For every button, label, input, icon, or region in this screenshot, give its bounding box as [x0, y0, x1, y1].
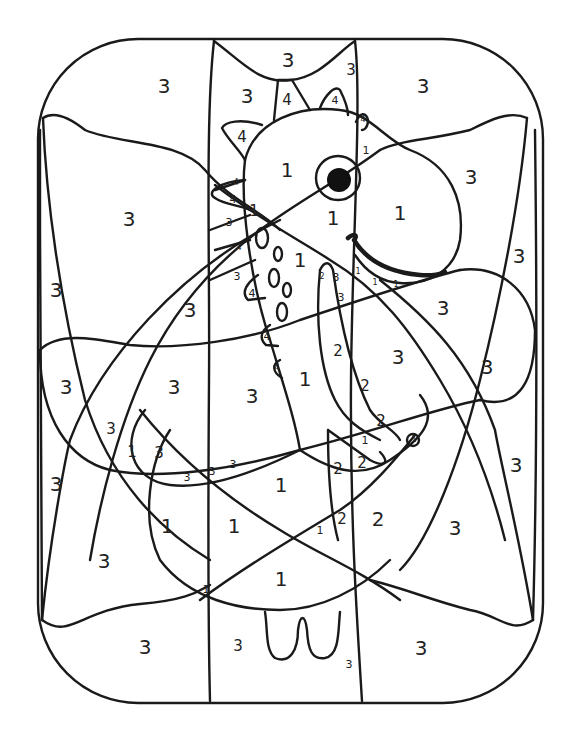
region-number-label: 1 [299, 369, 312, 389]
spot-2 [274, 247, 282, 261]
region-number-label: 1 [372, 279, 377, 287]
right-wing-lower [400, 118, 527, 570]
region-number-label: 3 [233, 639, 243, 654]
spot-1 [256, 228, 268, 248]
region-number-label: 3 [449, 518, 462, 538]
region-number-label: 3 [234, 271, 241, 282]
region-number-label: 1 [281, 160, 294, 180]
region-number-label: 1 [294, 250, 307, 270]
region-number-label: 3 [139, 637, 152, 657]
region-number-label: 3 [282, 50, 295, 70]
region-number-label: 3 [98, 551, 111, 571]
region-number-label: 2 [333, 462, 343, 477]
region-number-label: 1 [355, 268, 360, 276]
region-number-label: 4 [233, 179, 238, 187]
region-number-label: 3 [241, 86, 254, 106]
region-number-label: 3 [106, 422, 116, 437]
region-number-label: 3 [333, 272, 340, 283]
region-number-label: 3 [158, 76, 171, 96]
spot-4 [283, 283, 291, 297]
region-number-label: 3 [392, 347, 405, 367]
region-number-label: 1 [362, 435, 369, 446]
region-number-label: 1 [249, 204, 259, 219]
region-number-label: 1 [363, 145, 370, 156]
left-band-line [208, 41, 214, 701]
bottom-right-wave [370, 580, 533, 625]
left-blob-bottom [40, 350, 480, 474]
region-number-label: 3 [246, 386, 259, 406]
region-number-label: 3 [184, 472, 191, 483]
eye-pupil [327, 168, 351, 192]
region-number-label: 3 [168, 377, 181, 397]
region-number-label: 1 [161, 516, 174, 536]
region-number-label: 4 [360, 116, 365, 124]
region-number-label: 3 [154, 446, 164, 461]
region-number-label: 2 [376, 414, 386, 429]
region-number-label: 3 [415, 638, 428, 658]
spot-3 [269, 269, 279, 287]
region-number-label: 4 [236, 244, 241, 252]
region-number-label: 4 [264, 331, 271, 342]
region-number-label: 3 [338, 292, 345, 303]
region-number-label: 2 [372, 509, 385, 529]
region-number-label: 1 [228, 516, 241, 536]
chest-strip [320, 263, 400, 440]
spot-5 [277, 303, 287, 321]
region-number-label: 3 [230, 459, 237, 470]
region-number-label: 2 [333, 344, 343, 359]
region-number-label: 1 [127, 445, 137, 460]
region-number-label: 3 [123, 209, 136, 229]
region-number-label: 4 [237, 130, 247, 145]
region-number-label: 3 [465, 167, 478, 187]
mouth-smile [348, 235, 445, 275]
region-number-label: 3 [513, 246, 526, 266]
region-number-label: 3 [346, 63, 356, 78]
region-number-label: 3 [50, 280, 63, 300]
region-number-label: 1 [275, 569, 288, 589]
region-number-label: 3 [510, 455, 523, 475]
region-number-label: 1 [394, 203, 407, 223]
region-number-label: 3 [481, 357, 494, 377]
region-number-label: 3 [437, 298, 450, 318]
region-number-label: 2 [360, 379, 370, 394]
region-number-label: 3 [346, 659, 353, 670]
region-number-label: 1 [411, 436, 416, 444]
region-number-label: 4 [230, 194, 237, 205]
region-number-label: 3 [60, 377, 73, 397]
region-number-label: 1 [317, 525, 324, 536]
dino-legs [265, 612, 340, 659]
region-number-label: 2 [357, 456, 367, 471]
region-number-label: 3 [226, 217, 233, 228]
region-number-label: 2 [319, 273, 324, 281]
region-number-label: 3 [417, 76, 430, 96]
region-number-label: 1 [275, 475, 288, 495]
region-number-label: 3 [209, 466, 216, 477]
region-number-label: 3 [184, 300, 197, 320]
region-number-label: 4 [249, 288, 256, 299]
region-number-label: 1 [203, 584, 210, 595]
right-band-line [351, 41, 362, 701]
region-number-label: 4 [332, 95, 339, 106]
region-number-label: 3 [50, 474, 63, 494]
right-side-line [533, 130, 536, 620]
region-number-label: 4 [282, 93, 292, 108]
region-number-label: 2 [337, 512, 347, 527]
region-number-label: 4 [274, 364, 279, 372]
region-number-label: 1 [393, 281, 398, 289]
region-number-label: 1 [327, 208, 340, 228]
right-blob [460, 269, 535, 402]
bottom-left-wave [42, 585, 210, 627]
